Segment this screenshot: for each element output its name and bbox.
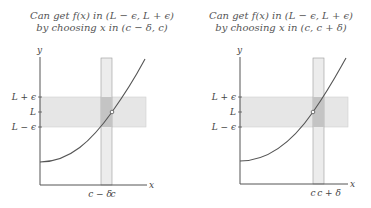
left-x-label: x bbox=[149, 180, 154, 190]
right-hole-point bbox=[311, 110, 315, 114]
right-x-label: x bbox=[350, 179, 355, 189]
left-tick-l: L bbox=[29, 107, 36, 117]
right-graph: y x L + ϵ L L − ϵ c c + δ bbox=[211, 45, 355, 198]
left-tick-c: c bbox=[110, 189, 115, 199]
right-tick-c: c bbox=[310, 188, 315, 198]
left-epsilon-band bbox=[40, 97, 146, 127]
right-tick-l-minus-eps: L − ϵ bbox=[211, 122, 236, 132]
left-tick-l-minus-eps: L − ϵ bbox=[11, 122, 36, 132]
diagram-canvas: y x L + ϵ L L − ϵ c − δ c y x L + ϵ L L … bbox=[0, 0, 371, 208]
left-tick-l-plus-eps: L + ϵ bbox=[11, 92, 36, 102]
right-tick-l-plus-eps: L + ϵ bbox=[211, 92, 236, 102]
left-graph: y x L + ϵ L L − ϵ c − δ c bbox=[11, 45, 154, 199]
left-tick-c-minus-delta: c − δ bbox=[88, 189, 112, 199]
right-y-label: y bbox=[236, 45, 243, 55]
right-epsilon-band bbox=[240, 97, 348, 127]
left-hole-point bbox=[110, 110, 114, 114]
left-y-label: y bbox=[36, 45, 43, 55]
right-tick-c-plus-delta: c + δ bbox=[317, 188, 341, 198]
right-tick-l: L bbox=[229, 107, 236, 117]
